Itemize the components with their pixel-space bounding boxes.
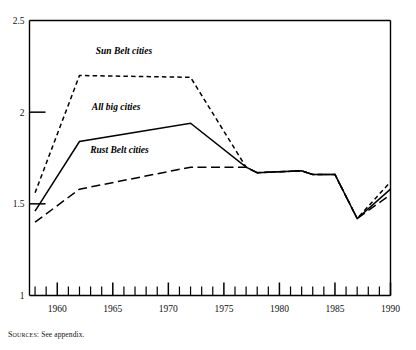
- chart-figure: 11.522.5 1960196519701975198019851990 Su…: [0, 0, 416, 350]
- chart-series-lines: [35, 76, 390, 223]
- y-tick-label: 1: [20, 291, 25, 301]
- series-line: [35, 76, 390, 219]
- y-tick-label: 1.5: [13, 199, 25, 209]
- chart-axes: [30, 21, 391, 296]
- x-tick-label: 1970: [159, 304, 178, 314]
- line-chart: 11.522.5 1960196519701975198019851990 Su…: [0, 0, 416, 350]
- x-tick-label: 1985: [325, 304, 344, 314]
- source-note: Sources: See appendix.: [8, 330, 85, 339]
- x-tick-label: 1980: [270, 304, 289, 314]
- x-tick-label: 1990: [381, 304, 400, 314]
- x-tick-label: 1965: [103, 304, 122, 314]
- y-tick-label: 2.5: [13, 16, 25, 26]
- y-tick-label: 2: [20, 108, 25, 118]
- series-label: All big cities: [91, 102, 141, 112]
- x-tick-label: 1975: [214, 304, 233, 314]
- x-axis-ticks: [35, 283, 390, 296]
- x-tick-label: 1960: [48, 304, 67, 314]
- x-tick-labels: 1960196519701975198019851990: [48, 304, 400, 314]
- source-note-text: See appendix.: [39, 330, 84, 339]
- series-label: Sun Belt cities: [96, 46, 153, 56]
- source-note-prefix: Sources:: [8, 330, 39, 339]
- series-line: [35, 123, 390, 218]
- series-line: [35, 167, 390, 222]
- series-label: Rust Belt cities: [89, 145, 149, 155]
